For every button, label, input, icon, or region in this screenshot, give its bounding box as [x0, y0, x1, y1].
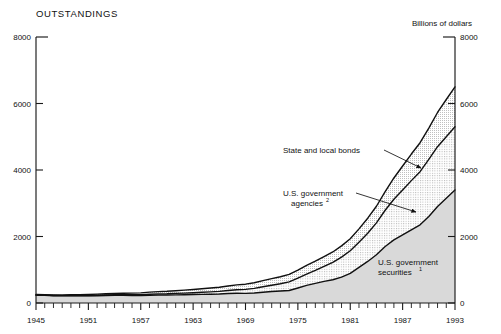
- x-tick-label-1993: 1993: [446, 316, 464, 325]
- y-tick-label-left-0: 0: [27, 299, 32, 308]
- y-tick-label-right-6000: 6000: [460, 100, 478, 109]
- x-tick-label-1969: 1969: [237, 316, 255, 325]
- outstandings-area-chart: OUTSTANDINGS Billions of dollars 0020002…: [0, 0, 501, 334]
- y-tick-label-left-4000: 4000: [13, 166, 31, 175]
- annotation-securities-line1: U.S. government: [378, 258, 439, 267]
- x-tick-label-1957: 1957: [132, 316, 150, 325]
- annotation-state-and-local-bonds: State and local bonds: [283, 146, 421, 168]
- x-tick-label-1963: 1963: [184, 316, 202, 325]
- x-tick-label-1951: 1951: [79, 316, 97, 325]
- x-axis-labels: 194519511957196319691975198119871993: [27, 316, 464, 325]
- y-tick-label-right-2000: 2000: [460, 233, 478, 242]
- y-tick-label-right-8000: 8000: [460, 33, 478, 42]
- annotation-securities-footnote: 1: [419, 266, 422, 272]
- annotation-securities-line2: securities: [378, 268, 412, 277]
- y-tick-label-right-4000: 4000: [460, 166, 478, 175]
- chart-figure: OUTSTANDINGS Billions of dollars 0020002…: [0, 0, 501, 334]
- x-tick-label-1987: 1987: [394, 316, 412, 325]
- units-label: Billions of dollars: [412, 19, 472, 28]
- y-tick-label-left-8000: 8000: [13, 33, 31, 42]
- y-tick-label-left-2000: 2000: [13, 233, 31, 242]
- annotation-agencies-footnote: 2: [326, 197, 329, 203]
- annotation-agencies-line2: agencies: [291, 199, 323, 208]
- annotation-state-local-label: State and local bonds: [283, 146, 360, 155]
- page-title: OUTSTANDINGS: [36, 8, 118, 19]
- x-tick-label-1981: 1981: [341, 316, 359, 325]
- annotation-agencies-line1: U.S. government: [283, 189, 344, 198]
- x-tick-label-1975: 1975: [289, 316, 307, 325]
- y-tick-label-right-0: 0: [460, 299, 465, 308]
- x-tick-label-1945: 1945: [27, 316, 45, 325]
- y-tick-label-left-6000: 6000: [13, 100, 31, 109]
